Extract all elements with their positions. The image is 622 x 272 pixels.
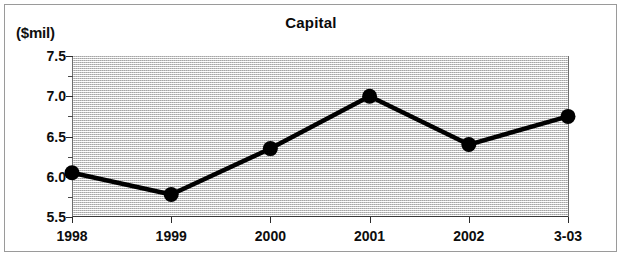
x-tick-label: 2000 (225, 228, 315, 244)
capital-series-plot (72, 56, 568, 217)
data-point-marker (461, 137, 476, 152)
data-point-marker (362, 89, 377, 104)
y-tick-label: 7.5 (26, 48, 66, 64)
x-tick-mark (568, 217, 569, 223)
chart-title: Capital (0, 14, 622, 31)
capital-series-markers (65, 89, 576, 202)
x-tick-mark (72, 217, 73, 223)
data-point-marker (561, 109, 576, 124)
y-tick-label: 5.5 (26, 209, 66, 225)
y-tick-label: 6.0 (26, 169, 66, 185)
x-tick-mark (171, 217, 172, 223)
plot-right-border (568, 56, 569, 218)
capital-series-line (72, 96, 568, 194)
x-tick-mark (370, 217, 371, 223)
x-tick-label: 2002 (424, 228, 514, 244)
x-tick-label: 1998 (27, 228, 117, 244)
capital-line-chart: ($mil) Capital 5.56.06.57.07.5 199819992… (0, 0, 622, 272)
y-tick-label: 6.5 (26, 129, 66, 145)
data-point-marker (164, 187, 179, 202)
data-point-marker (263, 141, 278, 156)
y-tick-label: 7.0 (26, 88, 66, 104)
data-point-marker (65, 165, 80, 180)
x-tick-label: 2001 (325, 228, 415, 244)
x-tick-label: 1999 (126, 228, 216, 244)
x-tick-mark (270, 217, 271, 223)
x-tick-label: 3-03 (523, 228, 613, 244)
x-tick-mark (469, 217, 470, 223)
